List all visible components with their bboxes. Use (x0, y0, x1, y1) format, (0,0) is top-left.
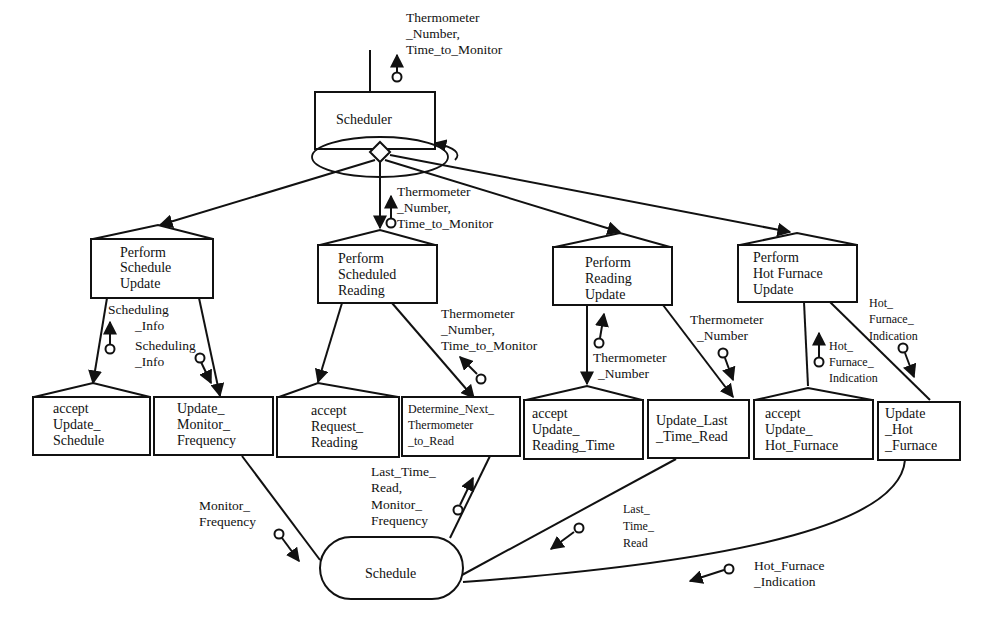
pru-up-couple-icon (595, 314, 605, 348)
scheduler-input-label: Thermometer _Number, Time_to_Monitor (405, 10, 503, 57)
scheduler-input-couple-icon (393, 55, 402, 82)
hf-indication-couple-icon (690, 565, 734, 582)
sched-info-down-label-2: _Info (134, 354, 164, 369)
hf-up-label-2: Furnace_ (829, 355, 875, 369)
ltr-mf-label-1: Last_Time_ (371, 464, 436, 479)
ltr-mf-label-4: Frequency (371, 513, 428, 528)
hf-up-couple-icon (815, 333, 824, 367)
hf-indication-label-1: Hot_Furnace (754, 558, 824, 573)
aus-label-2: Update_ (53, 417, 101, 432)
hf-up-label-1: Hot_ (829, 339, 854, 353)
monitor-frequency-couple-icon (275, 530, 300, 562)
sched-info-down-couple-icon (196, 354, 212, 384)
ltr-label-2: Time_ (623, 519, 655, 533)
psr-label-2: Scheduled (338, 267, 396, 282)
sched-info-down-label-1: Scheduling (135, 338, 196, 353)
schedule-store-label: Schedule (365, 566, 416, 581)
dnt-label-2: Thermometer (408, 418, 473, 432)
aurt-label-3: Reading_Time (532, 438, 615, 453)
dnt-out-label-3: Time_to_Monitor (441, 338, 538, 353)
pss-label-3: Update (120, 276, 160, 291)
pru-up-label-2: _Number (597, 366, 649, 381)
aus-label-3: Schedule (53, 433, 104, 448)
svg-text:_Number,: _Number, (405, 26, 460, 41)
phf-label-2: Hot Furnace (753, 266, 823, 281)
uhf-label-2: _Hot (884, 422, 913, 437)
svg-text:Thermometer: Thermometer (397, 184, 471, 199)
arr-label-2: Request_ (311, 419, 364, 434)
svg-text:Time_to_Monitor: Time_to_Monitor (397, 216, 494, 231)
aurt-label-2: Update_ (532, 422, 580, 437)
aurt-label-1: accept (532, 406, 568, 421)
ultr-label-1: Update_Last (656, 413, 728, 428)
umf-label-1: Update_ (177, 401, 225, 416)
psr-label-1: Perform (338, 251, 384, 266)
auhf-label-2: Update_ (765, 422, 813, 437)
hf-indication-label-2: _Indication (753, 574, 816, 589)
uhf-label-1: Update (885, 406, 925, 421)
arr-label-3: Reading (311, 435, 358, 450)
ltr-label-3: Read (623, 536, 648, 550)
scheduler-label: Scheduler (336, 112, 392, 127)
sched-info-up-couple-icon (106, 322, 115, 354)
uhf-label-3: _Furnace (884, 438, 937, 453)
hf-down-label-2: Furnace_ (869, 312, 915, 326)
hf-up-label-3: Indication (829, 371, 878, 385)
auhf-label-1: accept (765, 406, 801, 421)
pru-down-label-1: Thermometer (690, 312, 764, 327)
umf-label-2: Monitor_ (177, 417, 231, 432)
pss-label-1: Perform (120, 245, 166, 260)
hf-down-label-3: Indication (869, 329, 918, 343)
psr-input-couple-icon (387, 196, 396, 228)
ltr-mf-label-2: Read, (371, 480, 402, 495)
svg-text:Thermometer: Thermometer (406, 10, 480, 25)
pru-label-1: Perform (585, 255, 631, 270)
ltr-mf-label-3: Monitor_ (371, 497, 422, 512)
dnt-out-label-1: Thermometer (441, 306, 515, 321)
aus-label-1: accept (53, 401, 89, 416)
monitor-freq-label-2: Frequency (199, 514, 256, 529)
sched-info-up-label-1: Scheduling (108, 302, 169, 317)
svg-text:_Number,: _Number, (396, 200, 451, 215)
ltr-label-1: Last_ (623, 502, 651, 516)
ultr-label-2: _Time_Read (655, 429, 728, 444)
pru-down-couple-icon (719, 349, 734, 381)
pru-label-2: Reading (585, 271, 632, 286)
pru-down-label-2: _Number (696, 328, 748, 343)
phf-label-3: Update (753, 282, 793, 297)
structure-chart: Thermometer _Number, Time_to_Monitor Sch… (0, 0, 990, 626)
dnt-out-label-2: _Number, (440, 322, 495, 337)
phf-label-1: Perform (753, 250, 799, 265)
auhf-label-3: Hot_Furnace (765, 438, 838, 453)
umf-label-3: Frequency (177, 433, 236, 448)
dnt-out-couple-icon (460, 357, 486, 384)
dnt-label-1: Determine_Next_ (408, 402, 495, 416)
last-time-read-couple-icon (551, 524, 584, 550)
pss-label-2: Schedule (120, 260, 171, 275)
sched-info-up-label-2: _Info (134, 318, 164, 333)
arr-label-1: accept (311, 403, 347, 418)
dnt-label-3: _to_Read (407, 434, 454, 448)
psr-input-label: Thermometer _Number, Time_to_Monitor (396, 184, 494, 231)
monitor-freq-label-1: Monitor_ (199, 498, 250, 513)
pru-label-3: Update (585, 287, 625, 302)
pru-up-label-1: Thermometer (593, 350, 667, 365)
psr-label-3: Reading (338, 283, 385, 298)
svg-text:Time_to_Monitor: Time_to_Monitor (406, 42, 503, 57)
hf-down-label-1: Hot_ (869, 296, 894, 310)
